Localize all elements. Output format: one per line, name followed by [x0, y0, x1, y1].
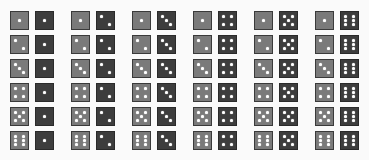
pip-icon	[43, 19, 46, 22]
pip-icon	[205, 119, 208, 122]
pip-icon	[258, 39, 261, 42]
dice-pair	[193, 11, 239, 31]
light-die	[315, 59, 334, 78]
pip-icon	[287, 43, 290, 46]
dark-die	[218, 11, 237, 30]
pip-icon	[144, 143, 147, 146]
pip-icon	[197, 139, 200, 142]
pip-icon	[14, 111, 17, 114]
light-die	[132, 59, 151, 78]
pip-icon	[43, 115, 46, 118]
light-die	[193, 59, 212, 78]
pip-icon	[291, 47, 294, 50]
dice-pair	[10, 11, 56, 31]
pip-icon	[327, 47, 330, 50]
pip-icon	[222, 63, 225, 66]
pip-icon	[79, 115, 82, 118]
pip-icon	[352, 23, 355, 26]
pip-icon	[161, 15, 164, 18]
pip-icon	[43, 91, 46, 94]
light-die	[10, 83, 29, 102]
pip-icon	[352, 47, 355, 50]
pip-icon	[291, 15, 294, 18]
light-die	[10, 59, 29, 78]
pip-icon	[205, 143, 208, 146]
pip-icon	[108, 23, 111, 26]
dice-pair	[315, 59, 361, 79]
pip-icon	[14, 139, 17, 142]
pip-icon	[291, 63, 294, 66]
pip-icon	[14, 63, 17, 66]
pip-icon	[283, 119, 286, 122]
dark-die	[340, 83, 359, 102]
pip-icon	[283, 95, 286, 98]
pip-icon	[22, 71, 25, 74]
dark-die	[96, 107, 115, 126]
pip-icon	[262, 67, 265, 70]
dice-pair	[254, 131, 300, 151]
pip-icon	[266, 71, 269, 74]
dark-die	[340, 59, 359, 78]
dice-pair	[10, 35, 56, 55]
dark-die	[279, 59, 298, 78]
pip-icon	[222, 15, 225, 18]
pip-icon	[344, 143, 347, 146]
pip-icon	[79, 19, 82, 22]
pip-icon	[319, 63, 322, 66]
pip-icon	[352, 67, 355, 70]
dark-die	[218, 107, 237, 126]
dark-die	[157, 59, 176, 78]
pip-icon	[197, 39, 200, 42]
pip-icon	[75, 139, 78, 142]
dice-pair	[193, 107, 239, 127]
dice-pair	[254, 11, 300, 31]
pip-icon	[165, 19, 168, 22]
pip-icon	[83, 111, 86, 114]
pip-icon	[266, 119, 269, 122]
pip-icon	[287, 139, 290, 142]
light-die	[193, 83, 212, 102]
dark-die	[218, 131, 237, 150]
pip-icon	[344, 135, 347, 138]
pip-icon	[100, 87, 103, 90]
dark-die	[279, 11, 298, 30]
pip-icon	[100, 135, 103, 138]
light-die	[10, 35, 29, 54]
pip-icon	[323, 115, 326, 118]
pip-icon	[75, 135, 78, 138]
dice-pair	[71, 131, 117, 151]
pip-icon	[344, 95, 347, 98]
dice-pair	[132, 131, 178, 151]
light-die	[132, 11, 151, 30]
pip-icon	[222, 111, 225, 114]
pip-icon	[140, 67, 143, 70]
pip-icon	[230, 23, 233, 26]
pip-icon	[136, 143, 139, 146]
dice-pair	[132, 83, 178, 103]
pip-icon	[161, 63, 164, 66]
dice-pair	[10, 59, 56, 79]
pip-icon	[136, 95, 139, 98]
pip-icon	[22, 119, 25, 122]
pip-icon	[14, 135, 17, 138]
pip-icon	[352, 143, 355, 146]
dice-pair	[10, 131, 56, 151]
pip-icon	[352, 39, 355, 42]
dice-pair	[315, 107, 361, 127]
pip-icon	[205, 135, 208, 138]
pip-icon	[18, 67, 21, 70]
pip-icon	[352, 115, 355, 118]
pip-icon	[266, 111, 269, 114]
dice-pair	[71, 59, 117, 79]
pip-icon	[344, 15, 347, 18]
pip-icon	[165, 67, 168, 70]
dark-die	[279, 131, 298, 150]
pip-icon	[287, 67, 290, 70]
dark-die	[218, 83, 237, 102]
pip-icon	[230, 71, 233, 74]
light-die	[315, 35, 334, 54]
pip-icon	[352, 71, 355, 74]
pip-icon	[222, 23, 225, 26]
light-die	[71, 107, 90, 126]
dark-die	[218, 59, 237, 78]
